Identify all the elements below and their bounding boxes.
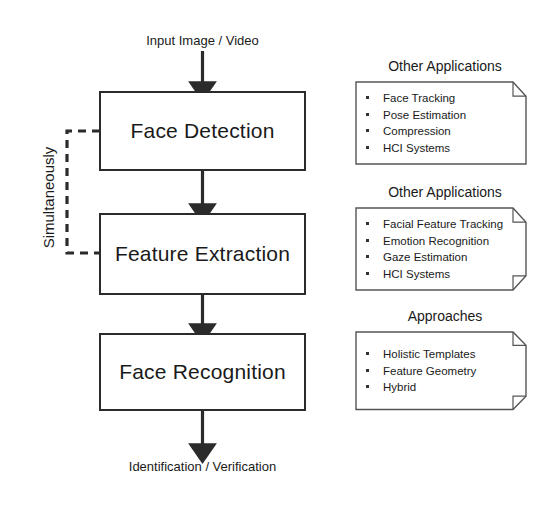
annotation-list-1: Facial Feature Tracking Emotion Recognit… [355, 207, 527, 291]
annotation-item-text: Pose Estimation [383, 109, 466, 121]
annotation-item-text: Feature Geometry [383, 365, 476, 377]
annotation-item-text: Holistic Templates [383, 348, 475, 360]
stage-label-feature-extraction: Feature Extraction [115, 242, 290, 266]
list-item: Holistic Templates [383, 346, 517, 363]
stage-box-face-detection[interactable]: Face Detection [99, 91, 306, 171]
annotation-list-0: Face Tracking Pose Estimation Compressio… [355, 81, 527, 165]
list-item: Facial Feature Tracking [383, 216, 517, 233]
annotation-group-face-detection: Other Applications Face Tracking Pose Es… [355, 58, 535, 165]
annotation-group-face-recognition: Approaches Holistic Templates Feature Ge… [355, 308, 535, 411]
annotation-item-text: Gaze Estimation [383, 251, 467, 263]
list-item: Emotion Recognition [383, 233, 517, 250]
list-item: Gaze Estimation [383, 249, 517, 266]
annotation-item-text: Facial Feature Tracking [383, 218, 503, 230]
list-item: HCI Systems [383, 140, 517, 157]
input-label: Input Image / Video [0, 33, 405, 48]
annotation-card-1[interactable]: Facial Feature Tracking Emotion Recognit… [355, 207, 527, 291]
bullet-icon [366, 113, 369, 116]
stage-box-face-recognition[interactable]: Face Recognition [99, 333, 306, 411]
annotation-item-text: HCI Systems [383, 268, 450, 280]
list-item: Feature Geometry [383, 363, 517, 380]
list-item: Compression [383, 123, 517, 140]
list-item: HCI Systems [383, 266, 517, 283]
list-item: Face Tracking [383, 90, 517, 107]
stage-box-feature-extraction[interactable]: Feature Extraction [99, 213, 306, 295]
annotation-item-text: Compression [383, 125, 451, 137]
annotation-group-feature-extraction: Other Applications Facial Feature Tracki… [355, 184, 535, 291]
output-label: Identification / Verification [0, 459, 405, 474]
bullet-icon [366, 146, 369, 149]
simultaneously-bracket [67, 131, 100, 253]
list-item: Pose Estimation [383, 107, 517, 124]
bullet-icon [366, 352, 369, 355]
annotation-item-text: Hybrid [383, 381, 416, 393]
annotation-title-0: Other Applications [355, 58, 535, 74]
bullet-icon [366, 255, 369, 258]
bullet-icon [366, 239, 369, 242]
annotation-title-2: Approaches [355, 308, 535, 324]
bullet-icon [366, 222, 369, 225]
bullet-icon [366, 369, 369, 372]
annotation-item-text: HCI Systems [383, 142, 450, 154]
bullet-icon [366, 129, 369, 132]
annotation-item-text: Emotion Recognition [383, 235, 489, 247]
stage-label-face-detection: Face Detection [130, 119, 274, 143]
face-recognition-pipeline-diagram: Input Image / Video Simultaneously Face … [0, 0, 536, 506]
annotation-card-0[interactable]: Face Tracking Pose Estimation Compressio… [355, 81, 527, 165]
annotation-card-2[interactable]: Holistic Templates Feature Geometry Hybr… [355, 331, 527, 411]
simultaneously-label: Simultaneously [40, 113, 57, 283]
bullet-icon [366, 385, 369, 388]
annotation-item-text: Face Tracking [383, 92, 455, 104]
annotation-list-2: Holistic Templates Feature Geometry Hybr… [355, 331, 527, 411]
bullet-icon [366, 272, 369, 275]
list-item: Hybrid [383, 379, 517, 396]
stage-label-face-recognition: Face Recognition [119, 360, 286, 384]
bullet-icon [366, 96, 369, 99]
annotation-title-1: Other Applications [355, 184, 535, 200]
